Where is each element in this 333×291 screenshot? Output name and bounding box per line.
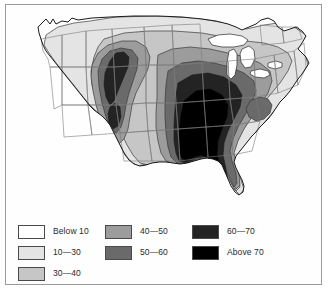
legend-item-60-70[interactable]: 60—70 <box>192 221 282 242</box>
legend-item-30-40[interactable]: 30—40 <box>18 263 108 284</box>
legend-label-above-70: Above 70 <box>227 248 264 257</box>
figure-container: Below 10 10—30 30—40 40—50 50—60 <box>0 0 333 291</box>
legend-label-10-30: 10—30 <box>53 248 81 257</box>
legend-column-1: Below 10 10—30 30—40 <box>18 221 108 284</box>
legend-swatch-above-70 <box>192 246 219 260</box>
legend-column-2: 40—50 50—60 <box>105 221 195 263</box>
legend-swatch-10-30 <box>18 246 45 260</box>
legend-label-50-60: 50—60 <box>140 248 168 257</box>
legend-swatch-30-40 <box>18 267 45 281</box>
legend-item-50-60[interactable]: 50—60 <box>105 242 195 263</box>
united-states-contour-map <box>6 5 326 220</box>
legend-item-10-30[interactable]: 10—30 <box>18 242 108 263</box>
legend-item-40-50[interactable]: 40—50 <box>105 221 195 242</box>
map-legend: Below 10 10—30 30—40 40—50 50—60 <box>18 221 308 283</box>
legend-swatch-40-50 <box>105 225 132 239</box>
map-area <box>6 5 326 220</box>
legend-label-60-70: 60—70 <box>227 227 255 236</box>
legend-item-below-10[interactable]: Below 10 <box>18 221 108 242</box>
legend-item-above-70[interactable]: Above 70 <box>192 242 282 263</box>
legend-swatch-60-70 <box>192 225 219 239</box>
legend-label-40-50: 40—50 <box>140 227 168 236</box>
legend-column-3: 60—70 Above 70 <box>192 221 282 263</box>
legend-swatch-below-10 <box>18 225 45 239</box>
legend-swatch-50-60 <box>105 246 132 260</box>
legend-label-30-40: 30—40 <box>53 269 81 278</box>
legend-label-below-10: Below 10 <box>53 227 89 236</box>
